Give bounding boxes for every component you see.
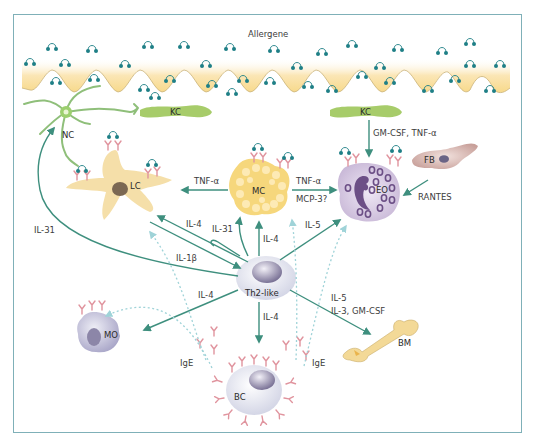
label-th2-to-bm-2: IL-3, GM-CSF xyxy=(331,306,385,316)
label-ige-left: IgE xyxy=(180,358,193,368)
th2-label: Th2-like xyxy=(244,288,279,298)
fb-label: FB xyxy=(424,155,435,165)
th2-like-cell: Th2-like xyxy=(236,256,296,300)
label-th2-to-eo: IL-5 xyxy=(305,220,321,230)
label-th2-to-bc: IL-4 xyxy=(263,312,279,322)
kc-left-label: KC xyxy=(170,107,181,117)
mo-label: MO xyxy=(104,330,118,340)
label-th2-to-mc-il4: IL-4 xyxy=(263,234,279,244)
label-mc-to-eo-1: TNF-α xyxy=(295,176,322,186)
label-mc-to-lc: TNF-α xyxy=(193,176,220,186)
allergy-pathway-diagram: Allergene NC KC K xyxy=(0,0,534,445)
nc-label: NC xyxy=(62,130,74,140)
allergen-title: Allergene xyxy=(248,29,288,39)
eo-label: EO xyxy=(376,185,388,195)
bc-label: BC xyxy=(234,392,246,402)
label-ige-right: IgE xyxy=(312,358,325,368)
bm-label: BM xyxy=(398,338,411,348)
keratinocyte-left: KC xyxy=(140,105,212,117)
label-mc-to-eo-2: MCP-3? xyxy=(296,194,327,204)
label-th2-to-mo: IL-4 xyxy=(198,290,214,300)
mc-label: MC xyxy=(252,186,265,196)
label-th2-to-nc: IL-31 xyxy=(34,225,55,235)
label-th2-to-mc-il31: IL-31 xyxy=(212,224,233,234)
keratinocyte-right: KC xyxy=(330,105,402,117)
label-kc-to-eo: GM-CSF, TNF-α xyxy=(373,128,437,138)
label-th2-to-bm-1: IL-5 xyxy=(331,293,347,303)
kc-right-label: KC xyxy=(360,107,371,117)
label-th2-to-lc: IL-4 xyxy=(186,219,202,229)
label-lc-to-th2: IL-1β xyxy=(176,253,197,263)
lc-label: LC xyxy=(130,181,141,191)
label-fb-to-eo: RANTES xyxy=(418,192,452,202)
